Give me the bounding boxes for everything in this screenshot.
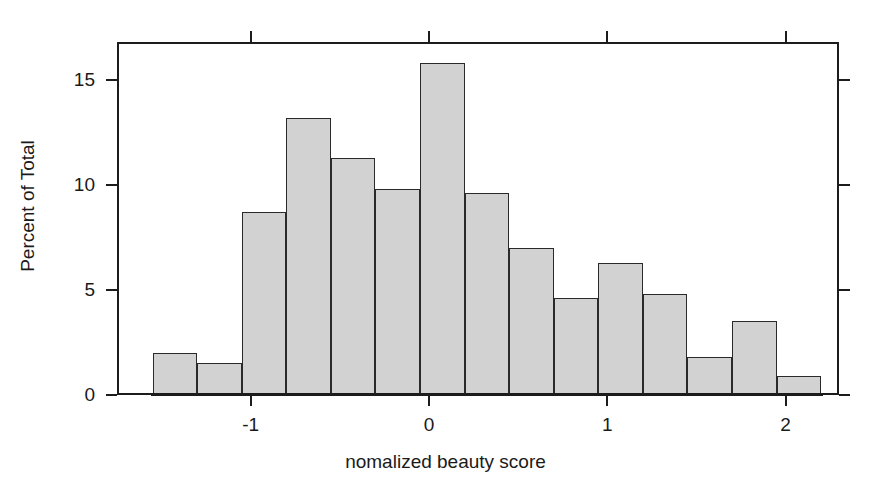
histogram-bar [331,158,376,395]
histogram-bar [375,189,420,395]
histogram-bar [286,118,331,395]
y-tick-mark [106,289,117,291]
x-tick-mark-top [250,31,252,42]
y-axis-title: Percent of Total [17,76,39,336]
x-axis-title: nomalized beauty score [0,451,891,473]
histogram-figure: 051015 -1012 nomalized beauty score Perc… [0,0,891,499]
plot-area [117,42,839,395]
histogram-bar [643,294,688,395]
y-tick-label: 10 [37,175,95,194]
y-tick-mark [106,184,117,186]
histogram-bar [554,298,599,395]
y-tick-label: 0 [37,385,95,404]
x-tick-mark [785,395,787,406]
x-tick-label: 1 [567,415,647,434]
x-tick-mark [250,395,252,406]
histogram-bar [465,193,510,395]
y-tick-mark-right [839,184,850,186]
histogram-bar [598,263,643,395]
histogram-bar [732,321,777,395]
histogram-bar [509,248,554,395]
y-tick-mark-right [839,289,850,291]
y-tick-label: 15 [37,70,95,89]
x-tick-mark-top [606,31,608,42]
y-tick-mark [106,79,117,81]
x-tick-mark-top [428,31,430,42]
x-tick-label: -1 [211,415,291,434]
y-tick-mark-right [839,394,850,396]
y-tick-mark-right [839,79,850,81]
x-tick-label: 0 [389,415,469,434]
histogram-bar [687,357,732,395]
y-tick-mark [106,394,117,396]
x-tick-label: 2 [746,415,826,434]
histogram-bar [242,212,287,395]
x-tick-mark-top [785,31,787,42]
histogram-bar [197,363,242,395]
x-tick-mark [606,395,608,406]
histogram-bar [153,353,198,395]
histogram-bar [420,63,465,395]
x-tick-mark [428,395,430,406]
y-tick-label: 5 [37,280,95,299]
